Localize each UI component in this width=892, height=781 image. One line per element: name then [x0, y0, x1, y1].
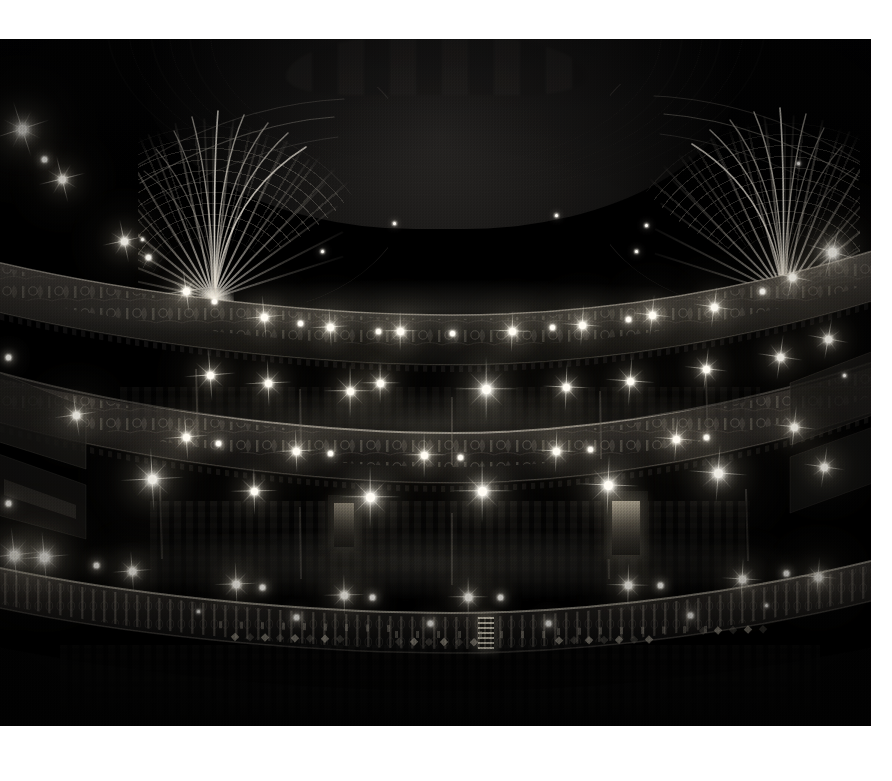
- page-margin-top: [0, 0, 892, 39]
- page-margin-right: [871, 0, 892, 781]
- page-margin-bottom: [0, 726, 892, 781]
- theatre-photograph: [0, 39, 871, 726]
- page: [0, 0, 892, 781]
- film-grain: [0, 39, 871, 726]
